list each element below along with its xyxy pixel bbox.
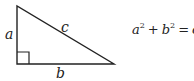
side-b-label: b [56, 66, 65, 80]
formula-var-a: a [132, 22, 140, 37]
formula-equals: = [175, 22, 192, 37]
formula-plus: + [145, 22, 162, 37]
formula-var-b: b [162, 22, 170, 37]
side-a-label: a [5, 27, 13, 41]
right-triangle-figure [0, 0, 194, 81]
triangle [17, 6, 114, 64]
side-c-label: c [61, 20, 69, 34]
formula-var-c: c [192, 22, 194, 37]
right-angle-marker [17, 52, 29, 64]
pythagorean-formula: a2+b2=c2 [132, 22, 194, 36]
